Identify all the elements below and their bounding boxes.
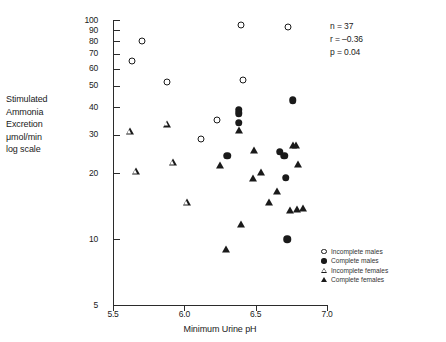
data-point-filled-triangle (216, 161, 224, 168)
legend-marker-icon (318, 268, 330, 273)
legend-item: Incomplete males (318, 247, 388, 256)
data-point-filled-triangle (294, 161, 302, 168)
legend-label: Incomplete males (330, 247, 383, 256)
y-tick-label: 10 (68, 235, 98, 244)
legend-marker-icon (318, 249, 330, 254)
data-point-filled-triangle (257, 168, 265, 175)
data-point-filled-circle (283, 235, 291, 243)
open-circle-icon (321, 249, 326, 254)
y-tick-mark (113, 305, 120, 306)
data-point-filled-triangle (292, 141, 300, 148)
data-point-open-triangle (126, 128, 134, 135)
data-point-open-circle (164, 79, 171, 86)
data-point-open-circle (238, 21, 245, 28)
data-point-filled-circle (280, 152, 288, 160)
y-axis-title-line: Excretion (6, 118, 98, 131)
data-point-filled-triangle (237, 221, 245, 228)
data-point-filled-triangle (273, 188, 281, 195)
data-point-filled-triangle (250, 147, 258, 154)
legend-label: Incomplete females (330, 266, 388, 275)
data-point-filled-circle (235, 110, 243, 118)
y-tick-label: 20 (68, 169, 98, 178)
data-point-filled-triangle (222, 246, 230, 253)
y-tick-label: 100 (68, 16, 98, 25)
x-tick-label: 6.5 (241, 310, 271, 319)
data-point-open-triangle (163, 120, 171, 127)
y-tick-label: 5 (68, 301, 98, 310)
x-axis-line (113, 305, 327, 306)
data-point-filled-triangle (265, 199, 273, 206)
y-tick-label: 30 (68, 130, 98, 139)
stats-annotation: n = 37r = –0.36p = 0.04 (330, 20, 363, 59)
stat-line: n = 37 (330, 20, 363, 33)
legend-marker-icon (318, 258, 330, 263)
y-tick-label: 50 (68, 81, 98, 90)
legend-label: Complete males (330, 256, 379, 265)
x-tick-label: 5.5 (98, 310, 128, 319)
data-point-filled-triangle (235, 126, 243, 133)
data-point-filled-circle (282, 174, 290, 182)
data-point-open-circle (198, 136, 205, 143)
filled-triangle-icon (321, 277, 327, 282)
y-tick-label: 90 (68, 26, 98, 35)
x-tick-label: 6.0 (169, 310, 199, 319)
y-tick-label: 70 (68, 49, 98, 58)
x-tick-label: 7.0 (312, 310, 342, 319)
filled-circle-icon (321, 258, 326, 263)
legend-item: Incomplete females (318, 266, 388, 275)
y-axis-title-line: log scale (6, 143, 98, 156)
data-point-filled-circle (223, 152, 231, 160)
open-triangle-icon (321, 268, 327, 273)
legend-label: Complete females (330, 275, 384, 284)
data-point-open-triangle (132, 168, 140, 175)
x-axis-title: Minimum Urine pH (113, 324, 327, 334)
data-point-filled-triangle (249, 174, 257, 181)
y-tick-label: 60 (68, 64, 98, 73)
stat-line: p = 0.04 (330, 46, 363, 59)
data-point-open-circle (214, 116, 221, 123)
data-point-open-triangle (169, 159, 177, 166)
data-point-open-triangle (183, 199, 191, 206)
data-point-open-circle (285, 23, 292, 30)
legend-marker-icon (318, 277, 330, 282)
legend-item: Complete females (318, 275, 388, 284)
data-point-open-circle (138, 38, 145, 45)
stat-line: r = –0.36 (330, 33, 363, 46)
legend: Incomplete malesComplete malesIncomplete… (318, 247, 388, 285)
data-point-open-circle (239, 77, 246, 84)
legend-item: Complete males (318, 256, 388, 265)
data-point-open-circle (128, 57, 135, 64)
data-point-filled-triangle (299, 204, 307, 211)
y-tick-label: 40 (68, 103, 98, 112)
data-point-filled-circle (235, 119, 243, 127)
data-point-filled-circle (289, 97, 297, 105)
chart-root: StimulatedAmmoniaExcretionμmol/minlog sc… (0, 0, 446, 342)
y-tick-label: 80 (68, 37, 98, 46)
